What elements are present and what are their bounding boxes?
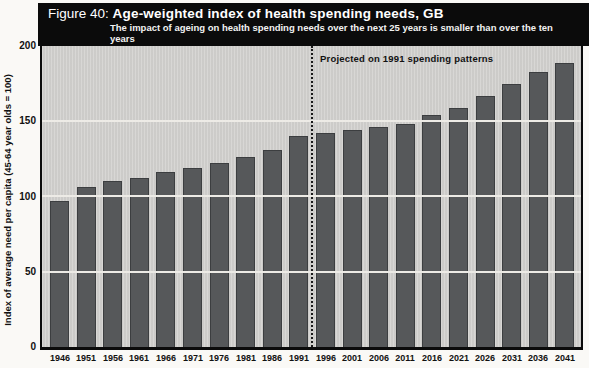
bar-2026 — [476, 96, 495, 347]
figure-label: Figure 40: — [48, 6, 109, 21]
bar-1991 — [289, 136, 308, 347]
x-tick-label-2036: 2036 — [523, 353, 553, 363]
bar-1966 — [156, 172, 175, 347]
y-tick-label-200: 200 — [0, 40, 36, 52]
x-tick-label-2041: 2041 — [550, 353, 580, 363]
bar-2011 — [396, 124, 415, 347]
bar-1996 — [316, 133, 335, 347]
figure-header: Figure 40: Age-weighted index of health … — [38, 3, 589, 46]
x-tick-label-2001: 2001 — [337, 353, 367, 363]
x-tick-label-2026: 2026 — [470, 353, 500, 363]
bar-1986 — [263, 150, 282, 347]
x-tick-label-1951: 1951 — [71, 353, 101, 363]
figure-title-line: Figure 40: Age-weighted index of health … — [48, 6, 581, 22]
x-tick-label-1976: 1976 — [204, 353, 234, 363]
x-tick-label-2011: 2011 — [390, 353, 420, 363]
bar-1951 — [77, 187, 96, 347]
bar-2021 — [449, 108, 468, 347]
figure-title: Age-weighted index of health spending ne… — [113, 6, 444, 21]
x-tick-label-1961: 1961 — [124, 353, 154, 363]
bar-1956 — [103, 181, 122, 347]
bar-1961 — [130, 178, 149, 347]
bar-1976 — [210, 163, 229, 347]
y-tick-label-50: 50 — [0, 266, 36, 278]
figure-40: Figure 40: Age-weighted index of health … — [0, 0, 589, 368]
figure-subtitle-line1: The impact of ageing on health spending … — [110, 22, 553, 44]
projection-annotation: Projected on 1991 spending patterns — [320, 53, 493, 64]
bar-1946 — [50, 201, 69, 347]
bar-2016 — [422, 115, 441, 347]
x-tick-label-1986: 1986 — [257, 353, 287, 363]
bar-2036 — [529, 72, 548, 347]
projection-divider-dotted-line — [311, 46, 313, 347]
y-tick-label-150: 150 — [0, 115, 36, 127]
y-tick-label-0: 0 — [0, 341, 36, 353]
y-tick-label-100: 100 — [0, 191, 36, 203]
bar-1981 — [236, 157, 255, 347]
plot-area: Projected on 1991 spending patterns — [40, 46, 583, 350]
bar-2006 — [369, 127, 388, 347]
bar-2001 — [343, 130, 362, 347]
x-tick-label-1966: 1966 — [151, 353, 181, 363]
x-tick-label-1991: 1991 — [284, 353, 314, 363]
bar-2041 — [555, 63, 574, 347]
x-tick-label-2016: 2016 — [417, 353, 447, 363]
bar-2031 — [502, 84, 521, 347]
